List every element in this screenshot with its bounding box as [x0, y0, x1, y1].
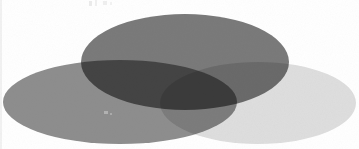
venn-canvas	[0, 0, 359, 149]
venn-diagram-figure	[0, 0, 359, 149]
venn-ellipse-right-set	[160, 62, 356, 144]
